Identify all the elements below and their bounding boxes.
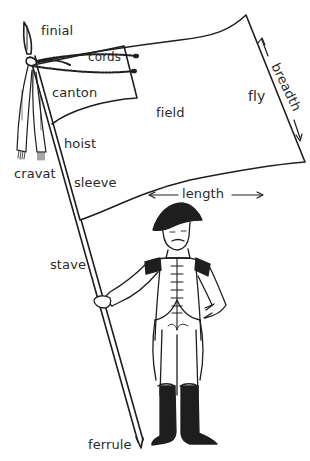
flag-parts-illustration [0, 0, 310, 461]
label-length: length [182, 187, 224, 200]
label-fly: fly [248, 89, 265, 103]
label-cravat: cravat [14, 167, 56, 180]
label-ferrule: ferrule [88, 438, 132, 451]
label-sleeve: sleeve [74, 176, 117, 189]
finial-icon [24, 22, 32, 54]
label-stave: stave [50, 258, 86, 271]
soldier-figure [94, 203, 226, 445]
label-field: field [156, 106, 185, 119]
label-hoist: hoist [64, 137, 96, 150]
label-canton: canton [52, 86, 97, 99]
label-finial: finial [41, 24, 73, 37]
label-cords: cords [88, 51, 121, 63]
